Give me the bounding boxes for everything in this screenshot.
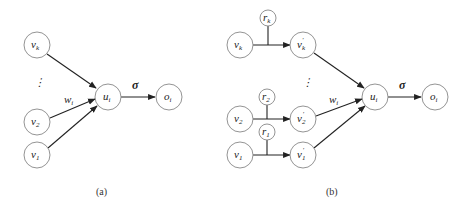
diagram-a: vk ⋮ v2 v1 ui oi wi σ (a) bbox=[24, 32, 182, 198]
node-v2-b: v2 bbox=[227, 106, 253, 132]
node-vk-b: vk bbox=[227, 32, 253, 58]
node-v2-prime: v2′ bbox=[290, 106, 316, 132]
ellipsis-b: ⋮ bbox=[302, 76, 313, 88]
activation-label-a: σ bbox=[132, 78, 139, 92]
weight-label-b: wi bbox=[329, 93, 338, 107]
node-v2: v2 bbox=[24, 109, 50, 135]
weight-label-a: wi bbox=[64, 93, 73, 107]
node-v1-b: v1 bbox=[227, 142, 253, 168]
neuron-diagrams: vk ⋮ v2 v1 ui oi wi σ (a) bbox=[0, 0, 469, 210]
activation-label-b: σ bbox=[399, 78, 406, 92]
node-oi: oi bbox=[156, 84, 182, 110]
diagram-b: rk vk vk′ ⋮ r2 v2 v2′ r1 v1 bbox=[227, 10, 448, 198]
node-rk: rk bbox=[260, 10, 276, 26]
node-oi-b: oi bbox=[422, 84, 448, 110]
caption-b: (b) bbox=[326, 186, 338, 198]
caption-a: (a) bbox=[96, 186, 107, 198]
node-v1-prime: v1′ bbox=[290, 142, 316, 168]
node-ui-b: ui bbox=[362, 84, 388, 110]
ellipsis-a: ⋮ bbox=[34, 76, 45, 88]
edge-v1prime-ui bbox=[314, 106, 365, 148]
node-ui: ui bbox=[95, 84, 121, 110]
node-r2: r2 bbox=[259, 89, 275, 105]
edge-v1-ui bbox=[48, 106, 97, 148]
edge-vkprime-ui bbox=[314, 53, 364, 88]
node-vk: vk bbox=[24, 32, 50, 58]
edge-vk-ui bbox=[47, 54, 96, 88]
node-r1: r1 bbox=[259, 124, 275, 140]
node-vk-prime: vk′ bbox=[290, 32, 316, 58]
node-v1: v1 bbox=[24, 142, 50, 168]
